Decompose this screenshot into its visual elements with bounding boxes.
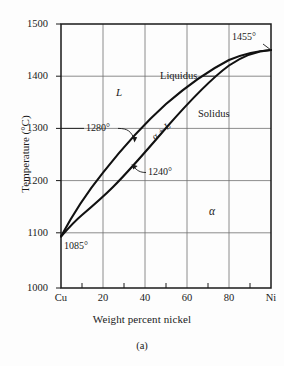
liquid-phase-label: L — [116, 86, 122, 98]
x-axis-title: Weight percent nickel — [0, 313, 284, 325]
solidus-label: Solidus — [198, 108, 230, 119]
annotation-1280-degrees: 1280° — [86, 122, 110, 133]
x-tick-label-cu: Cu — [41, 292, 81, 303]
annotation-1085-degrees: 1085° — [64, 240, 88, 251]
liquidus-label: Liquidus — [160, 70, 197, 81]
x-tick-label-20: 20 — [83, 292, 123, 303]
plot-frame — [61, 24, 271, 288]
alpha-phase-label: α — [209, 205, 215, 217]
y-axis-title: Temperature (°C) — [19, 84, 31, 224]
y-tick-label-1400: 1400 — [8, 70, 48, 81]
temp-1280-arrowhead — [132, 137, 137, 143]
x-tick-label-40: 40 — [125, 292, 165, 303]
x-tick-label-ni: Ni — [251, 292, 284, 303]
y-tick-label-1100: 1100 — [8, 227, 48, 238]
x-tick-label-60: 60 — [167, 292, 207, 303]
temp-1455-leader-line — [263, 44, 271, 50]
phase-diagram-figure: 1500 1400 1300 1200 1100 1000 Cu 20 40 6… — [0, 0, 284, 366]
x-tick-label-80: 80 — [209, 292, 249, 303]
gridlines-horizontal — [61, 76, 271, 233]
gridlines-vertical — [103, 24, 229, 288]
y-tick-label-1500: 1500 — [8, 18, 48, 29]
figure-caption: (a) — [0, 340, 284, 351]
annotation-1455-degrees: 1455° — [232, 31, 256, 42]
annotation-1240-degrees: 1240° — [148, 166, 172, 177]
